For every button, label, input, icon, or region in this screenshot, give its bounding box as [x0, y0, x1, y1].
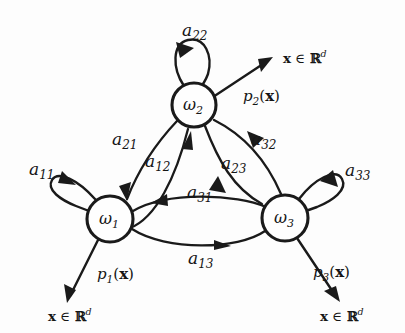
x-variable: x: [335, 263, 344, 281]
p-glyph: p: [97, 265, 107, 283]
omega-subscript: 1: [112, 218, 119, 231]
hmm-state-diagram: ω1 ω2 ω3 a11 a22 a33 a21 a12 a32 a23 a31…: [0, 0, 405, 333]
p-glyph: p: [313, 263, 323, 281]
dimension-exponent: d: [357, 306, 363, 317]
element-of-icon: ∈: [60, 308, 70, 324]
a-glyph: a: [112, 129, 122, 149]
arrowhead-icon: [151, 194, 168, 206]
a-glyph: a: [345, 160, 355, 180]
omega-subscript: 3: [287, 217, 294, 230]
arrowhead-icon: [258, 57, 273, 72]
a-subscript: 22: [192, 29, 207, 43]
arrowhead-icon: [324, 286, 340, 302]
dimension-exponent: d: [85, 306, 91, 317]
state-node-w1-label: ω1: [99, 211, 119, 230]
a-glyph: a: [251, 129, 261, 149]
state-node-w3-label: ω3: [274, 210, 294, 229]
edge-label-a13: a13: [188, 250, 213, 270]
emission-arrow-p1[interactable]: [64, 240, 98, 303]
x-variable: x: [265, 87, 274, 105]
a-subscript: 21: [122, 138, 137, 152]
emission-label-p2: p2(x): [243, 89, 280, 107]
observation-label-top-right: x ∈ ℝd: [283, 49, 326, 65]
emission-label-p1: p1(x): [97, 267, 134, 285]
real-space-glyph: ℝ: [347, 308, 358, 324]
x-variable: x: [119, 265, 128, 283]
omega-glyph: ω: [99, 209, 112, 228]
a-glyph: a: [221, 153, 231, 173]
a-subscript: 32: [261, 138, 276, 152]
emission-label-p3: p3(x): [313, 265, 350, 283]
element-of-icon: ∈: [295, 50, 305, 66]
edge-label-a21: a21: [112, 131, 137, 151]
arrowhead-icon: [176, 42, 194, 58]
observation-label-bottom-left: x ∈ ℝd: [48, 307, 91, 323]
a-glyph: a: [145, 151, 155, 171]
observation-label-bottom-right: x ∈ ℝd: [320, 307, 363, 323]
real-space-glyph: ℝ: [75, 308, 86, 324]
arrowhead-icon: [58, 171, 76, 185]
dimension-exponent: d: [320, 48, 326, 59]
edge-label-a11: a11: [29, 161, 54, 181]
element-of-icon: ∈: [332, 308, 342, 324]
p-glyph: p: [243, 87, 253, 105]
omega-subscript: 2: [196, 104, 203, 117]
a-glyph: a: [188, 248, 198, 268]
a-glyph: a: [182, 20, 192, 40]
a-subscript: 13: [198, 257, 213, 271]
edge-a12[interactable]: [130, 129, 193, 228]
a-subscript: 31: [197, 191, 212, 205]
real-space-glyph: ℝ: [310, 50, 321, 66]
arrowhead-icon: [214, 240, 231, 250]
edge-label-a33: a33: [345, 162, 370, 182]
state-node-w2-label: ω2: [183, 97, 203, 116]
a-subscript: 33: [355, 169, 370, 183]
edge-label-a31: a31: [187, 184, 212, 204]
edge-label-a32: a32: [251, 131, 276, 151]
a-glyph: a: [29, 159, 39, 179]
edge-label-a22: a22: [182, 22, 207, 42]
a-subscript: 12: [155, 160, 170, 174]
a-subscript: 23: [231, 162, 246, 176]
x-variable: x: [320, 308, 328, 324]
edge-label-a12: a12: [145, 153, 170, 173]
x-variable: x: [48, 308, 56, 324]
a-subscript: 11: [39, 168, 54, 182]
edge-a13[interactable]: [132, 229, 265, 250]
omega-glyph: ω: [183, 95, 196, 114]
a-glyph: a: [187, 182, 197, 202]
x-variable: x: [283, 50, 291, 66]
omega-glyph: ω: [274, 208, 287, 227]
edge-label-a23: a23: [221, 155, 246, 175]
